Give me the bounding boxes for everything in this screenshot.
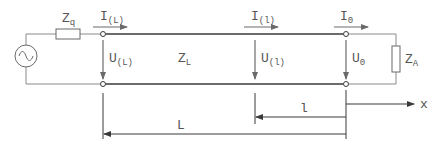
voltage-label-middle: U(l) <box>261 51 285 68</box>
dimension-lines <box>103 90 346 139</box>
load-impedance-label: ZA <box>405 52 419 69</box>
line-impedance-label: ZL <box>178 51 191 68</box>
load-impedance-resistor <box>392 46 400 72</box>
short-length-label: l <box>300 101 308 116</box>
terminals <box>101 32 349 87</box>
current-label-middle: I(l) <box>251 9 275 26</box>
x-axis-label: x <box>420 97 428 112</box>
current-label-input: I(L) <box>100 9 124 26</box>
ac-source-icon <box>15 45 37 67</box>
long-length-label: L <box>177 118 185 133</box>
voltage-label-output: U0 <box>352 51 365 68</box>
voltage-label-input: U(L) <box>109 51 133 68</box>
current-label-output: I0 <box>340 9 353 26</box>
source-impedance-resistor <box>56 29 80 39</box>
transmission-line-diagram: Zq ZA I(L) I(l) I0 U(L) U(l) U0 ZL x l <box>0 0 444 149</box>
source-impedance-label: Zq <box>62 11 75 28</box>
